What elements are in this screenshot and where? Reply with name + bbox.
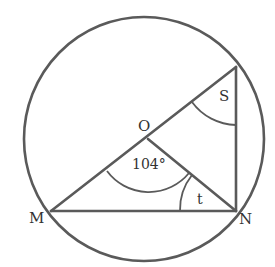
label-angle-104: 104° — [132, 156, 166, 172]
circle-diagram: O 104° S t M N — [0, 0, 275, 267]
label-n: N — [239, 210, 252, 228]
label-s: S — [219, 87, 229, 105]
angle-arc-s — [192, 102, 236, 125]
label-t: t — [197, 191, 203, 207]
label-m: M — [29, 209, 44, 227]
angle-arc-104 — [107, 171, 189, 192]
label-o: O — [138, 117, 150, 135]
